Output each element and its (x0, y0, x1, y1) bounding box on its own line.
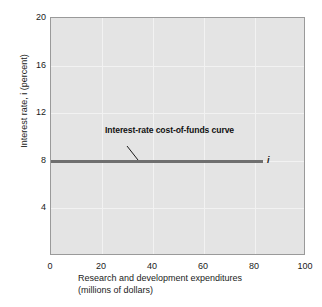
gridline-vertical-20 (102, 18, 103, 254)
gridline-vertical-40 (153, 18, 154, 254)
x-tick-label-100: 100 (292, 262, 318, 271)
plot-area: i Interest-rate cost-of-funds curve (50, 17, 305, 255)
x-tick-label-20: 20 (88, 262, 114, 271)
gridline-horizontal-4 (51, 208, 304, 209)
x-axis-title-line1: Research and development expenditures (78, 272, 308, 284)
y-axis-title: Interest rate, i (percent) (19, 21, 29, 181)
gridline-vertical-80 (255, 18, 256, 254)
x-tick-label-0: 0 (37, 262, 63, 271)
x-tick-label-40: 40 (139, 262, 165, 271)
curve-annotation-line2: curve (212, 125, 234, 135)
annotation-leader-line (127, 146, 143, 162)
x-axis-title-line2: (millions of dollars) (78, 284, 308, 296)
curve-annotation-line1: Interest-rate cost-of-funds (105, 125, 209, 135)
curve-label-i: i (267, 156, 270, 165)
gridline-horizontal-12 (51, 113, 304, 114)
gridline-horizontal-16 (51, 66, 304, 67)
curve-annotation: Interest-rate cost-of-funds curve (105, 124, 235, 136)
gridline-vertical-60 (204, 18, 205, 254)
x-tick-label-60: 60 (190, 262, 216, 271)
cost-of-funds-curve-line (51, 160, 263, 163)
x-axis-title: Research and development expenditures (m… (78, 272, 308, 296)
x-tick-label-80: 80 (241, 262, 267, 271)
interest-rate-cost-of-funds-chart: i Interest-rate cost-of-funds curve 20 1… (0, 0, 322, 307)
y-tick-label-4: 4 (22, 203, 46, 212)
